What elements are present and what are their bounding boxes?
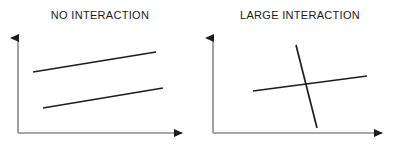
panel-no-interaction: NO INTERACTION <box>0 0 200 150</box>
series-lower-line <box>43 88 163 108</box>
series-shallow-line <box>253 76 367 91</box>
series-steep-line <box>296 45 317 128</box>
panel-large-interaction: LARGE INTERACTION <box>200 0 400 150</box>
figure-two-panel-interaction-plots: NO INTERACTION LARGE INTERACTION <box>0 0 400 150</box>
plot-no-interaction <box>0 0 200 150</box>
plot-large-interaction <box>200 0 400 150</box>
series-upper-line <box>33 52 156 72</box>
